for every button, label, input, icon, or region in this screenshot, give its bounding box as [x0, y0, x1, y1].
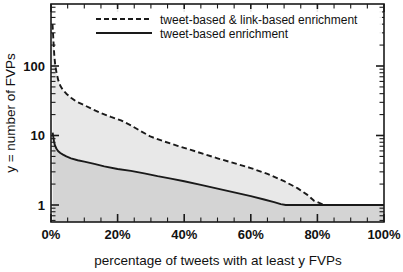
y-axis-title: y = number of FVPs	[3, 53, 18, 173]
x-tick-label: 40%	[171, 227, 197, 242]
x-tick-label: 20%	[105, 227, 131, 242]
legend: tweet-based & link-based enrichment twee…	[88, 9, 382, 42]
y-tick-label: 1	[38, 198, 45, 213]
y-tick-label: 100	[23, 59, 45, 74]
chart-figure: 110100 0%20%40%60%80%100% percentage of …	[0, 0, 403, 272]
y-tick-label: 10	[31, 128, 45, 143]
chart-canvas: 110100 0%20%40%60%80%100% percentage of …	[0, 0, 403, 272]
x-tick-label: 80%	[304, 227, 330, 242]
x-axis-title: percentage of tweets with at least y FVP…	[94, 253, 342, 268]
legend-label-solid: tweet-based enrichment	[160, 27, 289, 41]
x-tick-label: 0%	[42, 227, 61, 242]
legend-label-dashed: tweet-based & link-based enrichment	[160, 13, 358, 27]
x-tick-label: 100%	[367, 227, 401, 242]
x-tick-label: 60%	[238, 227, 264, 242]
